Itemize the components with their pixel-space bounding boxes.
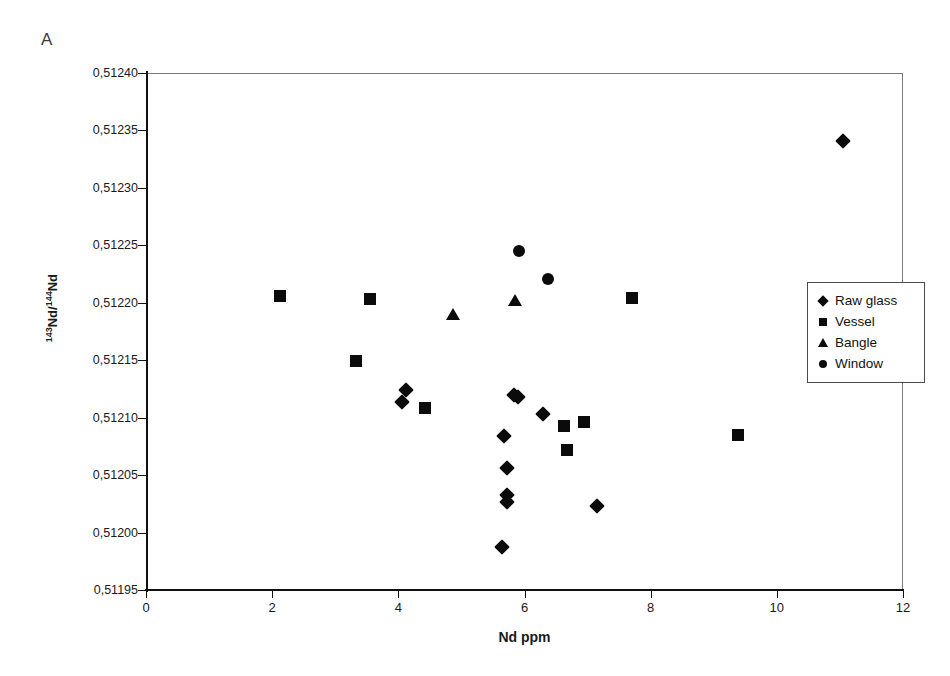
legend-item-label: Vessel bbox=[835, 314, 875, 329]
y-axis-tick bbox=[138, 73, 146, 74]
x-axis-tick-label: 0 bbox=[142, 600, 149, 615]
data-point-square bbox=[350, 355, 362, 367]
x-axis-tick bbox=[398, 590, 399, 598]
data-point-square bbox=[578, 416, 590, 428]
legend-item-raw-glass[interactable]: Raw glass bbox=[816, 290, 918, 311]
data-point-square bbox=[561, 444, 573, 456]
y-axis-tick bbox=[138, 533, 146, 534]
legend-item-label: Bangle bbox=[835, 335, 877, 350]
x-axis-tick-label: 2 bbox=[269, 600, 276, 615]
x-axis-tick-label: 12 bbox=[896, 600, 910, 615]
x-axis-tick-label: 4 bbox=[395, 600, 402, 615]
y-axis-tick-label: 0,51195 bbox=[56, 583, 138, 597]
diamond-marker-icon bbox=[816, 297, 830, 305]
data-point-circle bbox=[513, 245, 525, 257]
data-point-square bbox=[364, 293, 376, 305]
y-axis-tick bbox=[138, 360, 146, 361]
y-axis-tick bbox=[138, 418, 146, 419]
legend-item-label: Window bbox=[835, 356, 883, 371]
y-axis-tick-label: 0,51215 bbox=[56, 353, 138, 367]
x-axis-tick bbox=[272, 590, 273, 598]
y-axis-tick-label: 0,51225 bbox=[56, 238, 138, 252]
legend: Raw glassVesselBangleWindow bbox=[807, 282, 925, 383]
data-point-diamond bbox=[499, 460, 515, 476]
y-axis-tick-label: 0,51220 bbox=[56, 296, 138, 310]
y-axis-tick bbox=[138, 303, 146, 304]
y-axis-tick bbox=[138, 130, 146, 131]
data-point-circle bbox=[542, 273, 554, 285]
y-axis-title: 143Nd/144Nd bbox=[44, 228, 60, 388]
data-point-square bbox=[732, 429, 744, 441]
figure-panel-a: A 0,511950,512000,512050,512100,512150,5… bbox=[0, 0, 950, 676]
x-axis-tick-label: 6 bbox=[521, 600, 528, 615]
x-axis-tick bbox=[146, 590, 147, 598]
y-axis-tick bbox=[138, 475, 146, 476]
data-point-diamond bbox=[495, 540, 511, 556]
y-axis-tick-label: 0,51235 bbox=[56, 123, 138, 137]
triangle-marker-icon bbox=[816, 338, 830, 347]
legend-item-vessel[interactable]: Vessel bbox=[816, 311, 918, 332]
data-point-diamond bbox=[536, 406, 552, 422]
y-axis-tick-label: 0,51230 bbox=[56, 181, 138, 195]
data-point-diamond bbox=[835, 133, 851, 149]
panel-label: A bbox=[41, 30, 53, 50]
data-point-square bbox=[274, 290, 286, 302]
y-axis-tick bbox=[138, 188, 146, 189]
data-point-triangle bbox=[446, 308, 460, 320]
data-point-square bbox=[626, 292, 638, 304]
y-axis-tick bbox=[138, 245, 146, 246]
y-axis-tick-label: 0,51200 bbox=[56, 526, 138, 540]
square-marker-icon bbox=[816, 318, 830, 326]
legend-item-label: Raw glass bbox=[835, 293, 897, 308]
data-point-triangle bbox=[508, 294, 522, 306]
data-point-square bbox=[419, 402, 431, 414]
legend-item-bangle[interactable]: Bangle bbox=[816, 332, 918, 353]
y-axis-tick-label: 0,51205 bbox=[56, 468, 138, 482]
y-axis-tick bbox=[138, 590, 146, 591]
data-point-square bbox=[558, 420, 570, 432]
y-axis-tick-label: 0,51210 bbox=[56, 411, 138, 425]
x-axis-tick-label: 8 bbox=[647, 600, 654, 615]
x-axis-title: Nd ppm bbox=[146, 629, 903, 645]
x-axis-tick bbox=[651, 590, 652, 598]
x-axis-tick bbox=[903, 590, 904, 598]
y-axis-tick-label: 0,51240 bbox=[56, 66, 138, 80]
x-axis-tick bbox=[777, 590, 778, 598]
x-axis-tick bbox=[525, 590, 526, 598]
plot-data-area bbox=[146, 73, 903, 590]
legend-item-window[interactable]: Window bbox=[816, 353, 918, 374]
data-point-diamond bbox=[589, 498, 605, 514]
circle-marker-icon bbox=[816, 360, 830, 368]
x-axis-tick-label: 10 bbox=[770, 600, 784, 615]
data-point-diamond bbox=[497, 428, 513, 444]
